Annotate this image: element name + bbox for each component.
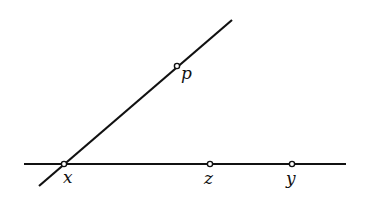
label-p: p xyxy=(181,63,192,83)
geometry-diagram: x p z y xyxy=(0,0,370,209)
point-p-marker xyxy=(174,63,179,68)
label-z: z xyxy=(203,168,214,188)
point-x-marker xyxy=(61,161,66,166)
point-z-marker xyxy=(207,161,212,166)
slanted-line xyxy=(39,20,232,186)
label-x: x xyxy=(63,167,73,187)
label-y: y xyxy=(285,168,296,188)
point-y-marker xyxy=(289,161,294,166)
